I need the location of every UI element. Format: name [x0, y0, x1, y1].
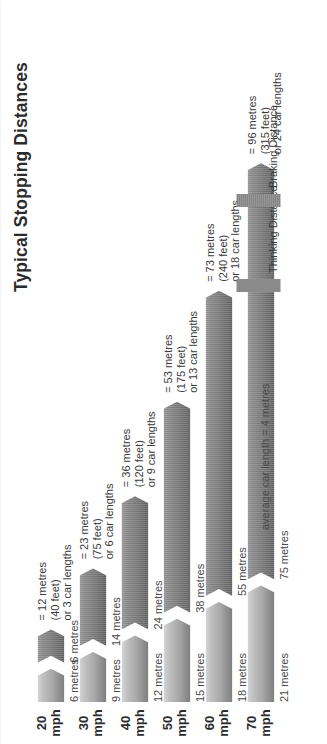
braking-distance-bar: 24 metres — [121, 496, 148, 629]
total-stopping-distance: = 53 metres(175 feet)or 13 car lengths — [161, 311, 199, 393]
bar-fill — [37, 669, 64, 702]
braking-distance-bar: 14 metres — [79, 568, 106, 646]
total-car-lengths: or 3 car lengths — [60, 545, 73, 621]
speed-unit: mph — [258, 708, 272, 738]
chart-row-60mph: 60mph18 metres55 metres= 73 metres(240 f… — [202, 0, 238, 744]
total-car-lengths: or 13 car lengths — [186, 311, 199, 393]
bar-fill — [79, 652, 106, 702]
thinking-distance-bar: 6 metres — [37, 669, 64, 702]
speed-label-40mph: 40mph — [118, 708, 154, 738]
total-feet: (40 feet) — [48, 545, 61, 621]
thinking-distance-bar: 18 metres — [205, 602, 232, 702]
speed-label-60mph: 60mph — [202, 708, 238, 738]
average-car-length-note: average car length = 4 metres — [258, 384, 270, 530]
braking-distance-bar: 55 metres — [205, 291, 232, 596]
speed-unit: mph — [174, 708, 188, 738]
total-car-lengths: or 6 car lengths — [102, 484, 115, 560]
braking-distance-bar: 6 metres — [37, 629, 64, 662]
total-stopping-distance: = 36 metres(120 feet)or 9 car lengths — [119, 411, 157, 487]
chart-row-30mph: 30mph9 metres14 metres= 23 metres(75 fee… — [76, 0, 112, 744]
bar-fill — [37, 629, 64, 662]
bar-fill — [205, 602, 232, 702]
bar-fill — [79, 568, 106, 646]
speed-number: 70 — [244, 708, 258, 738]
braking-distance-bar: 38 metres — [163, 402, 190, 613]
page-title: Typical Stopping Distances — [10, 2, 31, 292]
speed-number: 60 — [202, 708, 216, 738]
speed-label-30mph: 30mph — [76, 708, 112, 738]
legend-swatch-thinking-icon — [236, 279, 280, 292]
bar-track: 9 metres14 metres= 23 metres(75 feet)or … — [79, 0, 106, 702]
total-metres: = 36 metres — [119, 411, 132, 487]
total-metres: = 53 metres — [161, 311, 174, 393]
speed-label-20mph: 20mph — [34, 708, 70, 738]
total-stopping-distance: = 23 metres(75 feet)or 6 car lengths — [77, 484, 115, 560]
chart-row-40mph: 40mph12 metres24 metres= 36 metres(120 f… — [118, 0, 154, 744]
speed-label-50mph: 50mph — [160, 708, 196, 738]
speed-label-70mph: 70mph — [244, 708, 280, 738]
legend-label-braking: Braking Distance — [266, 105, 278, 188]
thinking-distance-value: 21 metres — [277, 653, 289, 702]
bar-track: 15 metres38 metres= 53 metres(175 feet)o… — [163, 0, 190, 702]
speed-unit: mph — [48, 708, 62, 738]
total-metres: = 23 metres — [77, 484, 90, 560]
total-stopping-distance: = 12 metres(40 feet)or 3 car lengths — [35, 545, 73, 621]
bar-fill — [121, 635, 148, 702]
braking-distance-value: 75 metres — [277, 531, 289, 580]
thinking-distance-bar: 12 metres — [121, 635, 148, 702]
poster-frame: Typical Stopping Distances 20mph6 metres… — [0, 0, 327, 744]
speed-number: 40 — [118, 708, 132, 738]
speed-number: 30 — [76, 708, 90, 738]
bar-fill — [247, 585, 274, 702]
speed-number: 20 — [34, 708, 48, 738]
bar-track: 6 metres6 metres= 12 metres(40 feet)or 3… — [37, 0, 64, 702]
total-stopping-distance: = 73 metres(240 feet)or 18 car lengths — [203, 200, 241, 282]
bar-fill — [163, 619, 190, 702]
bar-track: 12 metres24 metres= 36 metres(120 feet)o… — [121, 0, 148, 702]
bar-fill — [163, 402, 190, 613]
speed-number: 50 — [160, 708, 174, 738]
total-car-lengths: or 9 car lengths — [144, 411, 157, 487]
chart-row-50mph: 50mph15 metres38 metres= 53 metres(175 f… — [160, 0, 196, 744]
legend-swatch-braking-icon — [236, 194, 280, 207]
thinking-distance-bar: 21 metres — [247, 585, 274, 702]
chart-row-20mph: 20mph6 metres6 metres= 12 metres(40 feet… — [34, 0, 70, 744]
total-metres: = 12 metres — [35, 545, 48, 621]
total-feet: (240 feet) — [216, 200, 229, 282]
bar-fill — [205, 291, 232, 596]
rotated-poster-canvas: Typical Stopping Distances 20mph6 metres… — [0, 0, 327, 744]
speed-unit: mph — [90, 708, 104, 738]
stopping-distances-infographic: Typical Stopping Distances 20mph6 metres… — [0, 0, 327, 744]
bar-fill — [121, 496, 148, 629]
total-feet: (120 feet) — [132, 411, 145, 487]
total-feet: (75 feet) — [90, 484, 103, 560]
chart-legend: Thinking Distance Braking Distance — [236, 2, 316, 292]
thinking-distance-bar: 9 metres — [79, 652, 106, 702]
total-metres: = 73 metres — [203, 200, 216, 282]
thinking-distance-bar: 15 metres — [163, 619, 190, 702]
speed-unit: mph — [216, 708, 230, 738]
total-feet: (175 feet) — [174, 311, 187, 393]
bar-track: 18 metres55 metres= 73 metres(240 feet)o… — [205, 0, 232, 702]
speed-unit: mph — [132, 708, 146, 738]
